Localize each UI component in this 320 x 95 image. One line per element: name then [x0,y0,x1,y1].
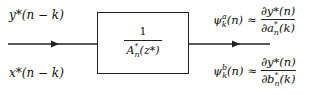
block-denominator: A*n(z*) [98,44,188,57]
output-arrowhead-icon [232,41,240,48]
block-numerator: 1 [98,25,188,38]
approx-symbol: ≈ [247,64,257,78]
partial-derivative-a: ∂y*(n) ∂a*n(k) [261,4,296,35]
fraction-bar [124,40,162,41]
input-label-y: y*(n − k) [9,8,64,22]
output-equation-a: ψak(n) ≈ ∂y*(n) ∂a*n(k) [213,4,295,35]
input-arrowhead-icon [51,41,59,48]
input-label-x: x*(n − k) [9,66,64,80]
transfer-function-fraction: 1 A*n(z*) [98,25,188,57]
partial-derivative-b: ∂y*(n) ∂b*n(k) [261,55,296,86]
approx-symbol: ≈ [247,13,257,27]
psi-a-label: ψak(n) [213,13,243,27]
psi-b-label: ψbk(n) [213,64,243,78]
output-equation-b: ψbk(n) ≈ ∂y*(n) ∂b*n(k) [213,55,296,86]
transfer-function-block: 1 A*n(z*) [97,12,189,74]
